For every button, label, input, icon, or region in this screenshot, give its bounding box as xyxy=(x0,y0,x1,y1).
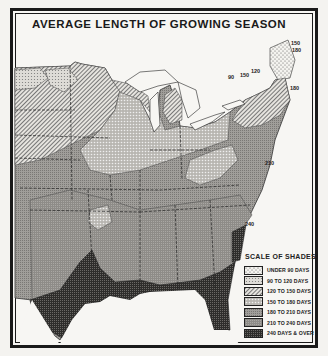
legend-title: SCALE OF SHADES xyxy=(244,253,324,260)
contour-label: 180 xyxy=(290,85,299,91)
legend-item: UNDER 90 DAYS xyxy=(244,265,324,276)
legend-item: 120 TO 150 DAYS xyxy=(244,286,324,297)
contour-label: 150 xyxy=(240,72,249,78)
scale-of-shades-legend: SCALE OF SHADES UNDER 90 DAYS 90 TO 120 … xyxy=(244,253,324,339)
region-90-120-maine xyxy=(270,40,295,80)
legend-label: 90 TO 120 DAYS xyxy=(267,278,308,284)
contour-label: 240 xyxy=(245,221,254,227)
legend-label: 210 TO 240 DAYS xyxy=(267,320,311,326)
map-title: AVERAGE LENGTH OF GROWING SEASON xyxy=(32,18,286,30)
swatch-150-180 xyxy=(244,297,263,306)
contour-label: 90 xyxy=(228,74,234,80)
legend-label: 150 TO 180 DAYS xyxy=(267,299,311,305)
legend-item: 210 TO 240 DAYS xyxy=(244,318,324,329)
legend-label: 240 DAYS & OVER xyxy=(267,330,314,336)
swatch-90-120 xyxy=(244,276,263,285)
legend-item: 150 TO 180 DAYS xyxy=(244,297,324,308)
swatch-120-150 xyxy=(244,287,263,296)
legend-label: 180 TO 210 DAYS xyxy=(267,309,311,315)
legend-label: UNDER 90 DAYS xyxy=(267,267,309,273)
contour-label: 210 xyxy=(265,160,274,166)
contour-label: 120 xyxy=(251,68,260,74)
legend-item: 90 TO 120 DAYS xyxy=(244,276,324,287)
swatch-240-plus xyxy=(244,329,263,338)
contour-label: 150 xyxy=(291,40,300,46)
swatch-180-210 xyxy=(244,308,263,317)
legend-label: 120 TO 150 DAYS xyxy=(267,288,311,294)
swatch-210-240 xyxy=(244,318,263,327)
swatch-under-90 xyxy=(244,266,263,275)
legend-item: 240 DAYS & OVER xyxy=(244,328,324,339)
contour-label: 180 xyxy=(292,47,301,53)
legend-item: 180 TO 210 DAYS xyxy=(244,307,324,318)
